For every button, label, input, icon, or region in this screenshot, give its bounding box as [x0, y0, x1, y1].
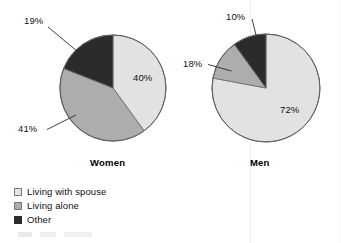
pie-men-label-living-with-spouse: 72% [280, 104, 299, 115]
chart-legend: Living with spouse Living alone Other [14, 185, 194, 227]
pie-men [208, 19, 320, 142]
legend-label-other: Other [27, 214, 51, 225]
legend-label-living-with-spouse: Living with spouse [27, 186, 106, 197]
cropped-row-artifact [18, 232, 92, 237]
pie-women-label-other: 19% [24, 15, 43, 26]
pie-women-title: Women [90, 157, 125, 168]
legend-item-living-alone: Living alone [14, 199, 194, 212]
pie-chart-figure: 19% 40% 41% Women 10% 18% 72% Men Living… [0, 0, 341, 243]
pie-women-label-living-with-spouse: 40% [133, 72, 152, 83]
pie-women-leader-other [48, 27, 81, 54]
pie-men-title: Men [250, 157, 270, 168]
legend-item-living-with-spouse: Living with spouse [14, 185, 194, 198]
legend-swatch-other [14, 216, 22, 224]
legend-swatch-living-alone [14, 202, 22, 210]
pie-women-label-living-alone: 41% [18, 123, 37, 134]
legend-label-living-alone: Living alone [27, 200, 79, 211]
legend-item-other: Other [14, 213, 194, 226]
legend-swatch-living-with-spouse [14, 188, 22, 196]
pie-men-label-other: 10% [226, 11, 245, 22]
pie-men-label-living-alone: 18% [183, 58, 202, 69]
pie-women [47, 27, 166, 141]
